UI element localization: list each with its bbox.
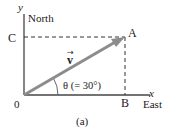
- vector-diagram: y North C A v → θ (= 30°) 0 B x East (a): [0, 0, 170, 134]
- figure-caption: (a): [76, 115, 89, 128]
- origin-label: 0: [14, 98, 20, 110]
- angle-arc: [53, 78, 58, 95]
- y-axis-label: y: [17, 1, 23, 13]
- point-b-label: B: [121, 96, 129, 110]
- point-c-label: C: [8, 31, 16, 45]
- point-a-label: A: [128, 26, 137, 40]
- arrowhead-icon: [111, 37, 125, 47]
- angle-label: θ (= 30°): [63, 80, 101, 92]
- vector-v-overarrow-icon: →: [67, 48, 74, 57]
- east-label: East: [143, 98, 162, 110]
- north-label: North: [28, 12, 54, 24]
